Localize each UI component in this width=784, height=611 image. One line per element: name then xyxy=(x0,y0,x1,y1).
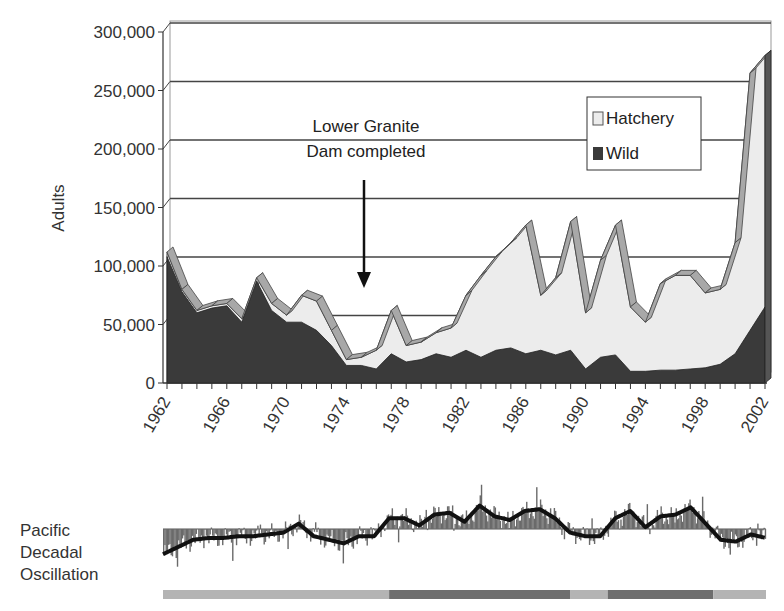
x-tick-label: 1966 xyxy=(199,394,234,436)
x-tick-label: 1962 xyxy=(139,394,174,436)
x-tick-label: 1990 xyxy=(558,394,593,436)
phase-segment-warm xyxy=(608,590,714,599)
phase-segment-cool xyxy=(163,590,389,599)
y-tick-label: 250,000 xyxy=(94,82,155,101)
x-tick-label: 1986 xyxy=(498,394,533,436)
pdo-label-line2: Decadal xyxy=(20,542,98,564)
legend-label-wild: Wild xyxy=(606,144,639,163)
x-tick-label: 1970 xyxy=(259,394,294,436)
x-tick-label: 1998 xyxy=(677,394,712,436)
pdo-phase-bar xyxy=(163,590,766,599)
y-tick-label: 50,000 xyxy=(103,316,155,335)
x-tick-label: 1994 xyxy=(617,394,652,436)
x-tick-label: 2002 xyxy=(737,394,772,436)
pdo-label-line1: Pacific xyxy=(20,520,98,542)
y-tick-label: 0 xyxy=(146,374,155,393)
chart: 050,000100,000150,000200,000250,000300,0… xyxy=(0,0,784,611)
x-tick-label: 1982 xyxy=(438,394,473,436)
x-tick-label: 1974 xyxy=(318,394,353,436)
legend: Hatchery Wild xyxy=(587,97,701,170)
y-axis-title: Adults xyxy=(49,184,68,231)
annotation-line2: Dam completed xyxy=(306,142,425,161)
pdo-label-line3: Oscillation xyxy=(20,564,98,586)
y-tick-label: 200,000 xyxy=(94,140,155,159)
phase-segment-cool xyxy=(570,590,608,599)
pdo-label: Pacific Decadal Oscillation xyxy=(20,520,98,586)
y-tick-label: 100,000 xyxy=(94,257,155,276)
annotation-line1: Lower Granite xyxy=(313,117,420,136)
y-tick-label: 300,000 xyxy=(94,23,155,42)
x-tick-label: 1978 xyxy=(378,394,413,436)
legend-label-hatchery: Hatchery xyxy=(606,109,675,128)
phase-segment-warm xyxy=(389,590,570,599)
y-tick-label: 150,000 xyxy=(94,199,155,218)
legend-swatch-wild xyxy=(593,147,603,160)
x-axis-ticks: 1962196619701974197819821986199019941998… xyxy=(139,383,772,436)
pdo-chart xyxy=(163,485,766,567)
legend-swatch-hatchery xyxy=(593,112,603,125)
y-axis-ticks: 050,000100,000150,000200,000250,000300,0… xyxy=(94,23,163,393)
phase-segment-cool xyxy=(713,590,766,599)
